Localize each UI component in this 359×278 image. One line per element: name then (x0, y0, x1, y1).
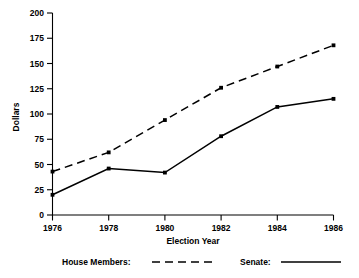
data-point-marker (219, 86, 223, 90)
y-tick-label: 50 (35, 160, 45, 170)
line-chart-svg: 200 175 150 125 100 75 50 25 0 1976 1978… (0, 0, 359, 278)
x-tick-label: 1982 (212, 223, 231, 233)
legend-label-house-members: House Members: (62, 257, 131, 267)
data-point-marker (107, 150, 111, 154)
x-axis-title: Election Year (166, 236, 220, 246)
chart-figure: 200 175 150 125 100 75 50 25 0 1976 1978… (0, 0, 359, 278)
y-tick-label: 100 (30, 109, 44, 119)
x-tick-label: 1986 (324, 223, 343, 233)
x-tick-label: 1976 (43, 223, 62, 233)
y-tick-label: 200 (30, 8, 44, 18)
data-point-marker (275, 65, 279, 69)
data-point-marker (51, 170, 55, 174)
y-tick-label: 75 (35, 134, 45, 144)
data-point-marker (332, 97, 336, 101)
y-tick-label: 25 (35, 185, 45, 195)
data-point-marker (332, 43, 336, 47)
x-tick-label: 1984 (268, 223, 287, 233)
data-point-marker (275, 105, 279, 109)
x-tick-label: 1978 (99, 223, 118, 233)
y-tick-label: 175 (30, 33, 44, 43)
data-point-marker (51, 193, 55, 197)
y-tick-label: 150 (30, 59, 44, 69)
y-axis-title: Dollars (11, 102, 21, 131)
data-point-marker (163, 118, 167, 122)
data-point-marker (163, 171, 167, 175)
y-tick-label: 125 (30, 84, 44, 94)
data-point-marker (107, 167, 111, 171)
data-point-marker (219, 134, 223, 138)
legend-label-senate: Senate: (240, 257, 271, 267)
x-tick-label: 1980 (155, 223, 174, 233)
y-tick-label: 0 (39, 210, 44, 220)
